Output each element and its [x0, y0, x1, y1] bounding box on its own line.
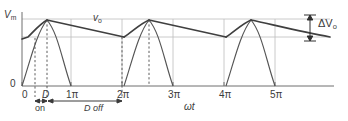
output-curve-label: vo	[93, 13, 102, 23]
y-axis-label-vm-main: V	[4, 9, 11, 20]
y-axis-label-vm: Vm	[4, 10, 16, 20]
waveform-plot	[0, 0, 348, 121]
vo-decay-1	[47, 20, 124, 37]
ripple-voltage-label: ΔVo	[318, 18, 337, 29]
ripple-voltage-label-main: ΔV	[318, 17, 333, 29]
sine-pulse-3	[226, 20, 275, 86]
x-axis-title-text: ωt	[184, 101, 195, 112]
x-axis-title: ωt	[184, 102, 195, 112]
vo-charge-2	[124, 20, 149, 37]
axes	[22, 12, 334, 86]
duty-cycle-marker-label: D	[42, 90, 49, 100]
duty-off-caption: D off	[84, 104, 103, 113]
x-tick-label-0: 0	[22, 90, 28, 100]
y-axis-label-vm-sub: m	[11, 14, 17, 21]
sine-pulse-2	[124, 20, 173, 86]
ripple-voltage-label-sub: o	[333, 22, 337, 31]
x-tick-label-5pi: 5π	[270, 90, 282, 100]
x-tick-label-2pi: 2π	[117, 90, 129, 100]
x-tick-label-3pi: 3π	[168, 90, 180, 100]
output-voltage-curve	[22, 20, 330, 39]
vo-charge-0	[22, 20, 47, 39]
x-axis-ticks	[22, 82, 275, 86]
duty-on-caption: on	[35, 104, 45, 113]
duty-cycle-marker-letter: D	[42, 89, 49, 100]
x-tick-label-1pi: 1π	[66, 90, 78, 100]
waveform-figure: Vm 0 0 1π 2π 3π 4π 5π D on D off ωt vo Δ…	[0, 0, 348, 121]
x-tick-label-4pi: 4π	[219, 90, 231, 100]
duty-off-caption-text: D off	[84, 103, 103, 113]
output-curve-label-sub: o	[98, 17, 102, 24]
sine-pulse-1	[22, 20, 71, 86]
ripple-arrow-up	[307, 15, 313, 20]
ripple-arrow-down	[307, 36, 313, 41]
vo-charge-3	[226, 20, 251, 37]
y-axis-label-zero: 0	[10, 79, 16, 89]
vo-decay-2	[149, 20, 226, 37]
